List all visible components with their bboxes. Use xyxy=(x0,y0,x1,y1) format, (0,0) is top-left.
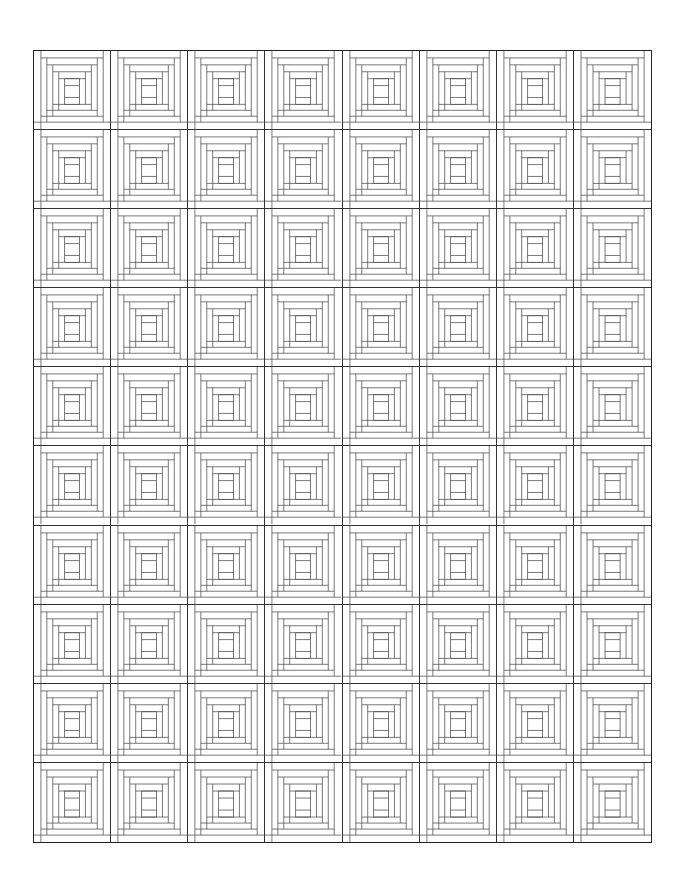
quilt-block xyxy=(497,288,574,367)
quilt-block xyxy=(497,605,574,684)
quilt-block xyxy=(34,130,111,209)
quilt-block xyxy=(265,209,342,288)
quilt-block xyxy=(497,526,574,605)
quilt-block xyxy=(343,209,420,288)
quilt-block xyxy=(420,288,497,367)
quilt-block xyxy=(574,763,651,842)
quilt-block xyxy=(188,763,265,842)
quilt-block xyxy=(188,130,265,209)
quilt-block xyxy=(111,130,188,209)
quilt-block xyxy=(111,446,188,525)
quilt-block xyxy=(265,446,342,525)
quilt-block xyxy=(34,763,111,842)
quilt-block xyxy=(420,684,497,763)
quilt-block xyxy=(343,51,420,130)
quilt-grid xyxy=(33,50,652,843)
quilt-block xyxy=(111,288,188,367)
quilt-block xyxy=(34,51,111,130)
quilt-block xyxy=(265,684,342,763)
quilt-block xyxy=(343,605,420,684)
quilt-block xyxy=(34,367,111,446)
quilt-block xyxy=(574,684,651,763)
quilt-block xyxy=(343,130,420,209)
quilt-block xyxy=(497,367,574,446)
quilt-block xyxy=(497,684,574,763)
quilt-block xyxy=(420,763,497,842)
quilt-block xyxy=(574,526,651,605)
quilt-block xyxy=(34,684,111,763)
quilt-block xyxy=(188,684,265,763)
quilt-block xyxy=(111,367,188,446)
quilt-block xyxy=(420,209,497,288)
quilt-block xyxy=(574,367,651,446)
quilt-block xyxy=(34,526,111,605)
quilt-block xyxy=(497,130,574,209)
quilt-block xyxy=(343,526,420,605)
quilt-block xyxy=(188,605,265,684)
quilt-block xyxy=(420,526,497,605)
quilt-block xyxy=(343,288,420,367)
quilt-block xyxy=(574,446,651,525)
quilt-block xyxy=(34,288,111,367)
quilt-block xyxy=(265,605,342,684)
quilt-block xyxy=(420,51,497,130)
quilt-block xyxy=(188,51,265,130)
quilt-block xyxy=(343,367,420,446)
quilt-block xyxy=(188,209,265,288)
quilt-block xyxy=(188,367,265,446)
quilt-block xyxy=(574,51,651,130)
quilt-block xyxy=(574,130,651,209)
quilt-block xyxy=(111,209,188,288)
quilt-block xyxy=(574,209,651,288)
quilt-block xyxy=(574,288,651,367)
quilt-block xyxy=(265,288,342,367)
quilt-block xyxy=(111,684,188,763)
quilt-block xyxy=(497,51,574,130)
quilt-block xyxy=(111,763,188,842)
quilt-block xyxy=(497,209,574,288)
quilt-block xyxy=(188,526,265,605)
quilt-block xyxy=(420,605,497,684)
quilt-block xyxy=(188,288,265,367)
quilt-block xyxy=(497,763,574,842)
quilt-block xyxy=(265,526,342,605)
quilt-block xyxy=(265,51,342,130)
quilt-block xyxy=(188,446,265,525)
quilt-block xyxy=(265,763,342,842)
quilt-block xyxy=(34,209,111,288)
quilt-block xyxy=(343,763,420,842)
quilt-block xyxy=(420,367,497,446)
quilt-block xyxy=(265,130,342,209)
quilt-block xyxy=(34,446,111,525)
quilt-block xyxy=(265,367,342,446)
quilt-block xyxy=(111,51,188,130)
quilt-block xyxy=(420,130,497,209)
quilt-block xyxy=(497,446,574,525)
quilt-block xyxy=(34,605,111,684)
quilt-block xyxy=(111,526,188,605)
quilt-block xyxy=(343,684,420,763)
quilt-block xyxy=(111,605,188,684)
quilt-block xyxy=(343,446,420,525)
quilt-block xyxy=(420,446,497,525)
quilt-block xyxy=(574,605,651,684)
